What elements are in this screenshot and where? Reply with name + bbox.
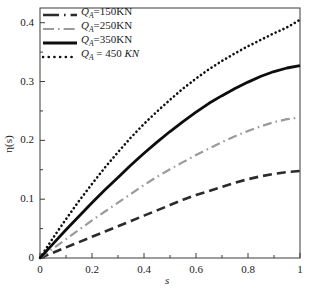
legend-line-sample [42, 21, 78, 33]
x-tick-label: 1 [290, 263, 310, 275]
x-tick-label: 0.4 [134, 263, 154, 275]
y-tick-label: 0 [4, 251, 34, 263]
x-tick-label: 0 [30, 263, 50, 275]
legend-line-sample [42, 35, 78, 47]
y-axis-title: η(s) [2, 121, 14, 167]
legend-label: QA = 450 KN [81, 47, 139, 62]
x-tick-label: 0.2 [82, 263, 102, 275]
chart-legend: QA=150KNQA=250KNQA=350KNQA = 450 KN [42, 6, 174, 62]
legend-label: QA=350KN [81, 33, 132, 48]
chart-figure: 00.20.40.60.81 00.10.20.30.4 η(s) s QA=1… [0, 0, 314, 291]
curve-2 [40, 66, 300, 258]
legend-item: QA=350KN [42, 34, 174, 48]
x-axis-title: s [165, 274, 169, 286]
y-tick-label: 0.1 [4, 192, 34, 204]
x-tick-label: 0.8 [238, 263, 258, 275]
y-axis-title-wrap: η(s) [1, 120, 15, 170]
legend-label: QA=150KN [81, 5, 132, 20]
y-tick-label: 0.4 [4, 16, 34, 28]
legend-line-sample [42, 49, 78, 61]
legend-line-sample [42, 7, 78, 19]
y-tick-label: 0.3 [4, 75, 34, 87]
legend-label: QA=250KN [81, 19, 132, 34]
curve-1 [40, 117, 300, 258]
legend-item: QA = 450 KN [42, 48, 174, 62]
x-tick-label: 0.6 [186, 263, 206, 275]
legend-item: QA=150KN [42, 6, 174, 20]
legend-item: QA=250KN [42, 20, 174, 34]
